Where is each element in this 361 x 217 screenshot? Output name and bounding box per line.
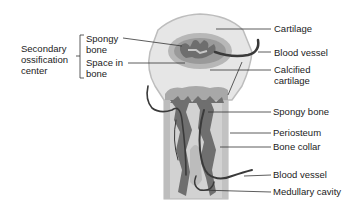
secondary-ossification-center [168, 33, 232, 69]
label-space-in-bone: Space in bone [86, 57, 123, 79]
label-blood-vessel-bottom: Blood vessel [273, 169, 327, 180]
label-cartilage: Cartilage [274, 23, 312, 34]
bracket [76, 35, 84, 78]
label-medullary-cavity: Medullary cavity [273, 186, 341, 197]
label-secondary-ossification-center: Secondary ossification center [21, 43, 68, 76]
label-spongy-bone-left: Spongy bone [86, 33, 118, 55]
label-spongy-bone: Spongy bone [273, 106, 329, 117]
label-periosteum: Periosteum [273, 127, 321, 138]
label-blood-vessel-top: Blood vessel [274, 47, 328, 58]
label-bone-collar: Bone collar [273, 141, 321, 152]
bone-diagram: Secondary ossification center Spongy bon… [0, 0, 361, 217]
label-calcified-cartilage: Calcified cartilage [274, 64, 310, 86]
